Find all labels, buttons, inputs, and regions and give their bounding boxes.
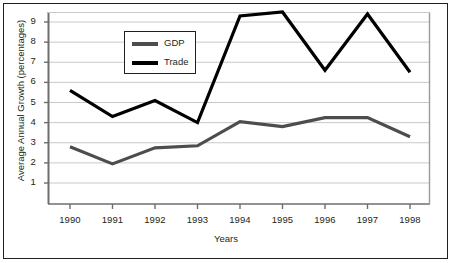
legend-label-gdp: GDP xyxy=(164,37,185,48)
x-tick-label: 1991 xyxy=(93,214,133,225)
legend-label-trade: Trade xyxy=(164,56,188,67)
legend-swatch-gdp xyxy=(132,42,158,46)
chart-legend: GDP Trade xyxy=(124,31,196,74)
gridlines-group xyxy=(49,22,429,183)
x-tick-label: 1998 xyxy=(390,214,430,225)
x-tick-label: 1996 xyxy=(305,214,345,225)
series-line-trade xyxy=(70,12,410,123)
x-tick-label: 1994 xyxy=(220,214,260,225)
legend-item-trade: Trade xyxy=(125,54,197,72)
x-axis-title: Years xyxy=(196,233,256,244)
legend-item-gdp: GDP xyxy=(125,35,197,53)
x-tick-label: 1990 xyxy=(50,214,90,225)
legend-swatch-trade xyxy=(132,61,158,65)
x-tick-label: 1997 xyxy=(348,214,388,225)
x-tick-label: 1995 xyxy=(263,214,303,225)
x-tick-label: 1993 xyxy=(178,214,218,225)
x-tick-label: 1992 xyxy=(135,214,175,225)
chart-figure: 123456789 199019911992199319941995199619… xyxy=(0,0,452,263)
series-line-gdp xyxy=(70,118,410,164)
y-axis-title: Average Annual Growth (percentages) xyxy=(15,13,26,189)
